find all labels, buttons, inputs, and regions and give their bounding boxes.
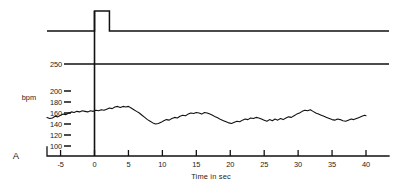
y-tick-label: 140	[50, 120, 62, 129]
x-tick-label: 30	[294, 160, 302, 169]
x-tick-label: 40	[362, 160, 370, 169]
x-tick-label: 15	[192, 160, 200, 169]
heart-rate-chart: 100120140160180200250 -50510152025303540…	[0, 0, 396, 195]
panel-label: A	[13, 150, 20, 161]
y-tick-label: 250	[50, 60, 62, 69]
y-tick-label: 180	[50, 98, 62, 107]
x-tick-label: 35	[328, 160, 336, 169]
y-axis-tick-dashes	[64, 91, 71, 146]
axis-lines	[47, 147, 389, 156]
x-tick-label: 0	[93, 160, 97, 169]
x-tick-label: 25	[260, 160, 268, 169]
y-axis-tick-labels: 100120140160180200250	[50, 60, 62, 151]
event-pulse-trace	[47, 11, 389, 31]
y-tick-label: 200	[50, 87, 62, 96]
x-axis-ticks	[61, 150, 366, 156]
x-tick-label: 20	[226, 160, 234, 169]
y-tick-label: 100	[50, 142, 62, 151]
heart-rate-figure-panel: 100120140160180200250 -50510152025303540…	[0, 0, 396, 195]
x-axis-tick-labels: -50510152025303540	[57, 160, 370, 169]
x-axis-title: Time in sec	[191, 172, 231, 181]
event-channel-group	[47, 11, 389, 31]
y-tick-label: 120	[50, 131, 62, 140]
x-tick-label: -5	[57, 160, 63, 169]
y-tick-label: 160	[50, 109, 62, 118]
x-tick-label: 10	[158, 160, 166, 169]
x-tick-label: 5	[126, 160, 130, 169]
y-axis-unit-label: bpm	[22, 93, 37, 102]
axes-group	[47, 91, 389, 156]
